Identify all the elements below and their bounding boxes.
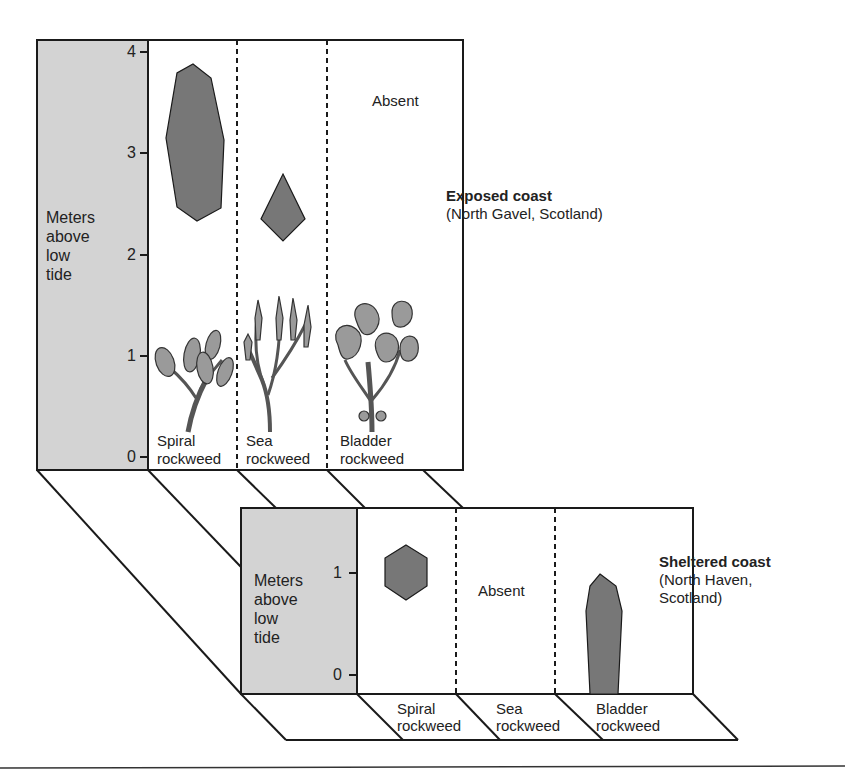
sheltered-tick-1: 1 — [322, 565, 342, 581]
exposed-bladder-absent-label: Absent — [372, 92, 419, 109]
exposed-tick-2: 2 — [116, 247, 136, 263]
sheltered-coast-heading: Sheltered coast — [659, 553, 771, 571]
exposed-coast-title: Exposed coast (North Gavel, Scotland) — [446, 187, 603, 223]
exposed-species-label-sea: Searockweed — [246, 432, 310, 468]
exposed-coast-location: (North Gavel, Scotland) — [446, 205, 603, 222]
sheltered-coast-location-1: (North Haven, — [659, 571, 771, 589]
zonation-diagram — [0, 0, 845, 783]
exposed-axis-title: Meters above low tide — [46, 208, 95, 284]
sheltered-floor — [241, 694, 738, 740]
bottom-rule — [0, 766, 845, 768]
sheltered-tick-0: 0 — [322, 667, 342, 683]
sheltered-species-label-spiral: Spiralrockweed — [397, 700, 461, 734]
sheltered-species-label-bladder: Bladderrockweed — [596, 700, 660, 734]
exposed-tick-0: 0 — [116, 449, 136, 465]
exposed-tick-4: 4 — [116, 44, 136, 60]
exposed-species-label-bladder: Bladderrockweed — [340, 432, 404, 468]
sheltered-chart-area — [357, 508, 693, 694]
exposed-species-label-spiral: Spiralrockweed — [157, 432, 221, 468]
exposed-tick-1: 1 — [116, 348, 136, 364]
sheltered-coast-title: Sheltered coast (North Haven, Scotland) — [659, 553, 771, 607]
exposed-tick-3: 3 — [116, 145, 136, 161]
sheltered-species-label-sea: Searockweed — [496, 700, 560, 734]
sheltered-bladder-range-shape — [586, 574, 622, 694]
exposed-coast-heading: Exposed coast — [446, 187, 603, 205]
sheltered-sea-absent-label: Absent — [478, 582, 525, 599]
sheltered-axis-title: Meters above low tide — [254, 571, 303, 647]
sheltered-coast-location-2: Scotland) — [659, 589, 771, 607]
